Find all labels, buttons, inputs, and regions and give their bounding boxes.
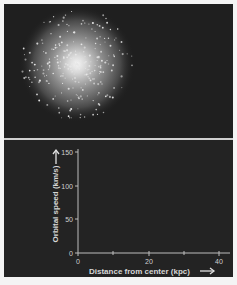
figure-frame: 0 50 100 150 0 20 40 Distance from cente… <box>4 4 233 277</box>
y-tick-label-100: 100 <box>61 183 73 190</box>
x-tick-label-0: 0 <box>76 258 80 265</box>
x-tick-label-20: 20 <box>145 258 153 265</box>
x-axis-label: Distance from center (kpc) <box>89 267 190 276</box>
rotation-curve-chart: 0 50 100 150 0 20 40 Distance from cente… <box>4 140 233 277</box>
arrow-right-icon <box>200 268 214 274</box>
x-tick-label-40: 40 <box>215 258 223 265</box>
galaxy-image <box>4 4 233 138</box>
y-tick-label-150: 150 <box>61 149 73 156</box>
y-tick-label-0: 0 <box>69 250 73 257</box>
arrow-up-icon <box>53 150 59 164</box>
y-axis-label: Orbital speed (km/s) <box>51 165 60 242</box>
y-tick-label-50: 50 <box>65 216 73 223</box>
galaxy-panel <box>4 4 233 138</box>
